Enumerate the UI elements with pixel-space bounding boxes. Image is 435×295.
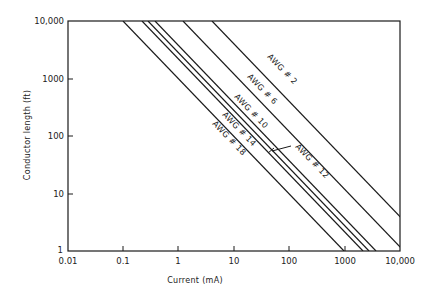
- chart-canvas: 10,000 1000 100 10 1 0.01 0.1 1 10 100 1…: [0, 0, 435, 295]
- x-tick-1: 1: [175, 256, 180, 266]
- y-tick-1000: 1000: [42, 74, 64, 84]
- y-axis-title: Conductor length (ft): [23, 90, 32, 180]
- x-tick-100: 100: [281, 256, 297, 266]
- y-axis: [68, 79, 73, 194]
- y-tick-10: 10: [53, 189, 64, 199]
- curve-awg-10: [155, 21, 376, 251]
- label-awg-12: AWG # 12: [294, 142, 331, 180]
- x-tick-0.1: 0.1: [116, 256, 130, 266]
- x-tick-0.01: 0.01: [59, 256, 78, 266]
- x-tick-1000: 1000: [334, 256, 356, 266]
- awg-12-leader-line: [272, 146, 291, 151]
- y-tick-100: 100: [48, 131, 64, 141]
- y-tick-10000: 10,000: [34, 16, 64, 26]
- x-axis-title: Current (mA): [167, 276, 223, 285]
- label-awg-6: AWG # 6: [246, 72, 279, 106]
- curve-awg-6: [183, 21, 404, 251]
- x-axis: [123, 246, 345, 251]
- x-tick-10: 10: [229, 256, 240, 266]
- curves: [123, 21, 433, 251]
- x-tick-10000: 10,000: [385, 256, 415, 266]
- y-tick-1: 1: [58, 245, 63, 255]
- curve-awg-12: [148, 21, 369, 251]
